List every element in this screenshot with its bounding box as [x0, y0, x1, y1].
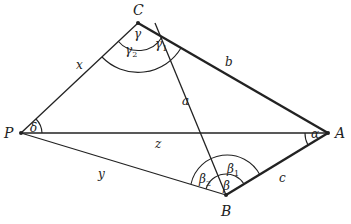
arc-alpha	[305, 133, 308, 145]
angle-alpha-label: α	[311, 127, 319, 141]
angle-gamma2-label: γ2	[125, 43, 137, 59]
vertex-P-label: P	[3, 125, 14, 141]
side-b	[138, 23, 328, 133]
side-x-label: x	[76, 58, 83, 72]
vertex-C-dot	[136, 21, 140, 25]
side-z-label: z	[154, 137, 162, 151]
side-y	[21, 133, 226, 195]
side-y-label: y	[97, 167, 105, 181]
vertex-B-label: B	[220, 203, 231, 219]
arc-gamma2-gamma1	[102, 48, 181, 72]
vertex-C-label: C	[133, 2, 144, 18]
diagram-canvas: C P A B x b a z y c γ γ1 γ2 δ α β β1 β2	[0, 0, 351, 224]
quadrilateral-diagram: C P A B x b a z y c γ γ1 γ2 δ α β β1 β2	[0, 0, 351, 224]
angle-delta-label: δ	[30, 121, 37, 135]
angle-beta1-label: β1	[226, 162, 239, 178]
side-b-label: b	[225, 55, 233, 69]
side-x	[21, 23, 138, 133]
side-a-label: a	[182, 94, 189, 108]
vertex-A-dot	[326, 131, 330, 135]
angle-beta-label: β	[222, 179, 230, 193]
side-c	[226, 133, 328, 195]
vertex-B-dot	[224, 193, 228, 197]
vertex-A-label: A	[333, 125, 345, 141]
vertex-P-dot	[19, 131, 23, 135]
angle-beta2-label: β2	[198, 172, 211, 188]
angle-gamma-label: γ	[134, 27, 142, 41]
side-c-label: c	[279, 171, 286, 185]
